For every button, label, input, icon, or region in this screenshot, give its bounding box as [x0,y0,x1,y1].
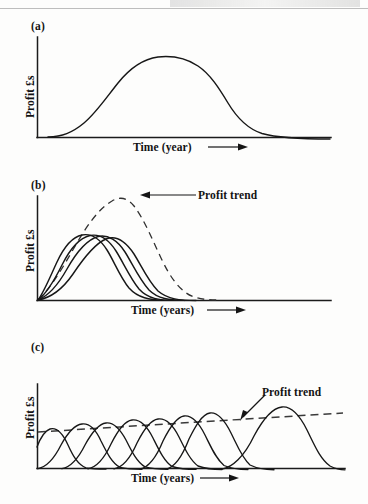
panel-a-y-axis-label: Profit £s [24,75,36,118]
panel-a-x-axis-arrow [208,144,248,151]
panel-b-letter: (b) [31,179,46,191]
panel-c-profit-trend-line [38,413,343,432]
panel-c-annotation-leader [240,395,265,421]
panel-a-letter: (a) [31,20,45,32]
panel-b-annotation-leader [140,191,196,198]
panel-a-x-axis-label: Time (year) [133,141,192,153]
panel-c-y-axis-label: Profit £s [24,396,36,439]
panel-b-y-axis-label: Profit £s [24,229,36,272]
panel-b-product-curve-1 [38,235,163,301]
panel-c-profit-trend-label: Profit trend [262,386,321,398]
panel-b-x-axis-label: Time (years) [131,304,194,316]
panel-c-x-axis-label: Time (years) [131,472,194,484]
panel-a-profit-curve [48,57,330,139]
figure-page: (a) Profit £s Time (year) (b) Profit £s … [0,0,368,504]
panel-a: (a) Profit £s Time (year) [0,0,368,165]
panel-c: (c) Profit £s Time (years) Profit trend [0,335,368,504]
panel-b-profit-trend-label: Profit trend [198,189,257,201]
panel-b: (b) Profit £s Time (years) Profit trend [0,165,368,335]
panel-c-letter: (c) [31,341,44,353]
panel-c-product-curve-1 [37,429,106,469]
panel-c-product-curve-8 [222,407,345,470]
panel-b-x-axis-arrow [207,307,246,314]
panel-c-x-axis-arrow [200,475,239,482]
